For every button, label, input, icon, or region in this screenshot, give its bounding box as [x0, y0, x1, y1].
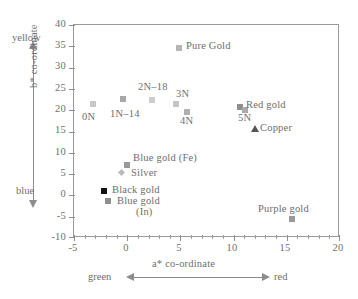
y-tick-label-0: 0	[44, 189, 66, 199]
plot-area: Pure Gold 2N–18 3N 0N 1N–14 4N Red gold …	[73, 24, 339, 237]
y-tick-25	[69, 89, 75, 90]
x-tick-label-0: 0	[113, 243, 139, 253]
x-axis-direction-label-green: green	[88, 271, 111, 282]
data-point-black-gold[interactable]	[101, 188, 107, 194]
y-tick-10	[69, 153, 75, 154]
data-point-3n[interactable]	[173, 101, 179, 107]
data-point-copper[interactable]	[251, 125, 259, 132]
x-minor-tick	[319, 235, 320, 239]
x-minor-tick	[308, 235, 309, 239]
x-tick-20	[339, 235, 340, 241]
x-tick-label-5: 5	[166, 243, 192, 253]
x-minor-tick	[159, 235, 160, 239]
x-minor-tick	[191, 235, 192, 239]
x-minor-tick	[212, 235, 213, 239]
label-1n-14: 1N–14	[110, 108, 140, 119]
y-axis-arrow-down-icon	[29, 200, 37, 208]
label-4n: 4N	[180, 115, 193, 126]
data-point-silver[interactable]	[118, 169, 125, 176]
label-2n-18: 2N–18	[138, 81, 168, 92]
y-tick-label-40: 40	[44, 19, 66, 29]
label-pure-gold: Pure Gold	[186, 40, 231, 51]
x-minor-tick	[244, 235, 245, 239]
x-tick-15	[287, 235, 288, 241]
x-tick-label-10: 10	[219, 243, 245, 253]
data-point-blue-gold-fe[interactable]	[124, 162, 130, 168]
y-tick-label-10: 10	[44, 147, 66, 157]
y-axis-title: b* co-ordinate	[28, 24, 39, 88]
x-tick-5	[180, 235, 181, 241]
x-minor-tick	[106, 235, 107, 239]
label-0n: 0N	[82, 111, 95, 122]
y-tick-label-m10: -10	[44, 232, 66, 242]
data-point-pure-gold[interactable]	[176, 45, 182, 51]
y-tick-label-30: 30	[44, 61, 66, 71]
label-3n: 3N	[176, 88, 189, 99]
label-black-gold: Black gold	[112, 184, 160, 195]
y-tick-20	[69, 110, 75, 111]
x-minor-tick	[149, 235, 150, 239]
x-tick-0	[127, 235, 128, 241]
x-minor-tick	[202, 235, 203, 239]
x-minor-tick	[170, 235, 171, 239]
y-tick-30	[69, 68, 75, 69]
label-5n: 5N	[238, 112, 251, 123]
x-minor-tick	[117, 235, 118, 239]
x-tick-label-15: 15	[272, 243, 298, 253]
x-minor-tick	[138, 235, 139, 239]
x-tick-label-20: 20	[325, 243, 351, 253]
x-axis-arrow-shaft	[132, 277, 264, 278]
y-axis-direction-label-blue: blue	[16, 185, 34, 196]
y-tick-35	[69, 46, 75, 47]
label-purple-gold: Purple gold	[258, 203, 309, 214]
x-axis-arrow-right-icon	[262, 273, 270, 281]
x-minor-tick	[255, 235, 256, 239]
y-tick-15	[69, 132, 75, 133]
x-minor-tick	[85, 235, 86, 239]
label-blue-gold-in-suffix: (In)	[136, 206, 153, 217]
x-tick-label-m5: -5	[60, 243, 86, 253]
label-copper: Copper	[260, 122, 292, 133]
x-minor-tick	[297, 235, 298, 239]
x-axis-direction-label-red: red	[274, 271, 287, 282]
label-silver: Silver	[131, 167, 157, 178]
y-tick-40	[69, 25, 75, 26]
y-tick-label-35: 35	[44, 40, 66, 50]
x-tick-m5	[74, 235, 75, 241]
data-point-blue-gold-in[interactable]	[105, 198, 111, 204]
label-red-gold: Red gold	[246, 99, 286, 110]
y-tick-label-m5: -5	[44, 211, 66, 221]
x-minor-tick	[276, 235, 277, 239]
y-tick-label-25: 25	[44, 83, 66, 93]
y-tick-0	[69, 195, 75, 196]
data-point-1n-14[interactable]	[120, 96, 126, 102]
y-tick-m5	[69, 217, 75, 218]
y-tick-5	[69, 174, 75, 175]
data-point-2n-18[interactable]	[149, 97, 155, 103]
data-point-0n[interactable]	[90, 101, 96, 107]
x-minor-tick	[329, 235, 330, 239]
label-blue-gold-in: Blue gold	[117, 195, 160, 206]
y-tick-label-5: 5	[44, 168, 66, 178]
x-minor-tick	[265, 235, 266, 239]
x-minor-tick	[95, 235, 96, 239]
label-blue-gold-fe: Blue gold (Fe)	[133, 152, 197, 163]
x-axis-title: a* co-ordinate	[152, 258, 215, 269]
x-tick-10	[234, 235, 235, 241]
x-minor-tick	[223, 235, 224, 239]
scatter-plot-figure: yellow blue b* co-ordinate 40 35 30 25 2…	[0, 0, 358, 299]
y-tick-label-20: 20	[44, 104, 66, 114]
y-tick-label-15: 15	[44, 125, 66, 135]
data-point-purple-gold[interactable]	[289, 216, 295, 222]
